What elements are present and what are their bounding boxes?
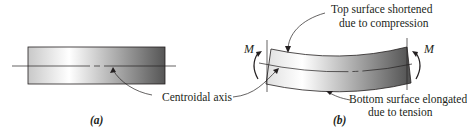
bottom-surface-label-line1: Bottom surface elongated: [349, 93, 467, 106]
top-surface-label-line1: Top surface shortened: [331, 3, 432, 16]
caption-b: (b): [333, 114, 346, 126]
moment-left-label: M: [244, 42, 254, 57]
bottom-surface-label-line2: due to tension: [368, 106, 433, 119]
moment-right-label: M: [424, 42, 434, 57]
caption-a: (a): [90, 114, 103, 126]
centroidal-axis-label: Centroidal axis: [162, 91, 232, 104]
straight-beam: [12, 47, 176, 95]
top-surface-label-line2: due to compression: [339, 17, 428, 30]
